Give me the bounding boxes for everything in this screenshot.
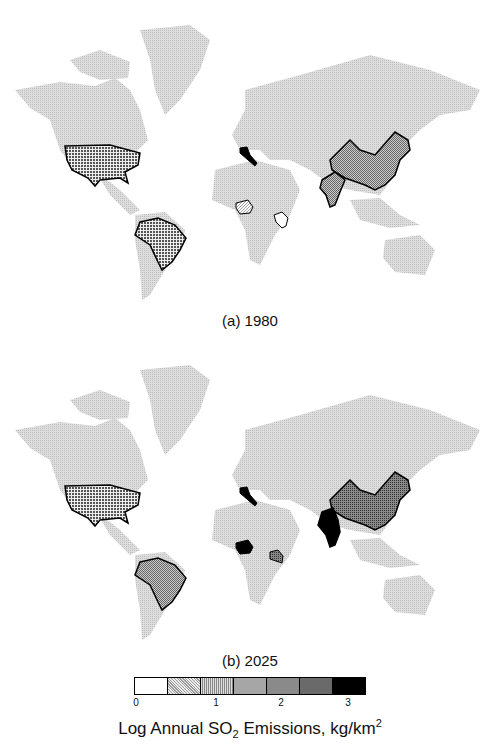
legend-swatch-6 — [333, 678, 365, 694]
country-usa — [65, 145, 140, 186]
world-map-2025 — [0, 340, 500, 650]
caption-2025: (b) 2025 — [0, 652, 500, 669]
legend-swatch-3 — [234, 678, 267, 694]
legend-swatch-5 — [300, 678, 333, 694]
caption-1980: (a) 1980 — [0, 312, 500, 329]
legend-title: Log Annual SO2 Emissions, kg/km2 — [0, 717, 500, 740]
legend-color-scale — [134, 677, 366, 695]
legend-ticks: 0 1 2 3 — [134, 697, 366, 709]
tick-0: 0 — [133, 697, 139, 708]
country-usa — [65, 485, 140, 526]
tick-2: 2 — [278, 697, 284, 708]
legend-swatch-4 — [267, 678, 300, 694]
tick-3: 3 — [345, 697, 351, 708]
tick-1: 1 — [213, 697, 219, 708]
world-map-1980 — [0, 0, 500, 310]
legend-swatch-1 — [168, 678, 201, 694]
legend-swatch-2 — [201, 678, 234, 694]
legend-swatch-0 — [135, 678, 168, 694]
